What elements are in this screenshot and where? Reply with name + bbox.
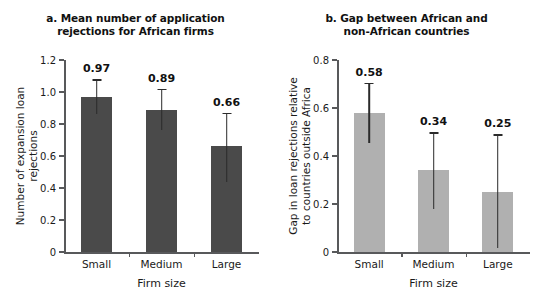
value-label-small: 0.97 [83, 62, 110, 75]
panel-a-x-axis-line [64, 252, 259, 254]
panel-a-plot-area: 00.20.40.60.81.01.20.970.890.66 [64, 60, 259, 252]
panel-a-title-line-1: a. Mean number of application [0, 12, 271, 25]
y-axis-tick-label: 0.4 [22, 183, 56, 194]
y-axis-tick-label: 0.8 [22, 119, 56, 130]
figure-two-panel-bar-charts: a. Mean number of application rejections… [0, 0, 542, 303]
y-axis-tick [332, 107, 337, 108]
error-bar-cap-small [92, 79, 101, 81]
x-axis-tick [466, 252, 467, 257]
x-axis-category-small: Small [355, 258, 384, 270]
error-bar-small [368, 83, 370, 143]
y-axis-tick [59, 155, 64, 156]
value-label-medium: 0.89 [148, 72, 175, 85]
y-axis-tick [59, 187, 64, 188]
x-axis-category-large: Large [483, 258, 513, 270]
panel-a-y-axis-line [64, 60, 66, 252]
panel-a-title: a. Mean number of application rejections… [0, 12, 271, 38]
error-bar-large [497, 134, 499, 248]
y-axis-tick [59, 91, 64, 92]
y-axis-tick-label: 0.6 [22, 151, 56, 162]
y-axis-tick [332, 155, 337, 156]
panel-b-y-axis-line [337, 60, 339, 252]
error-bar-large [226, 113, 228, 182]
x-axis-category-small: Small [82, 258, 111, 270]
error-bar-cap-small [365, 83, 374, 85]
value-label-medium: 0.34 [420, 115, 447, 128]
chart-panel-b: b. Gap between African and non-African c… [271, 0, 542, 303]
y-axis-tick-label: 0 [22, 247, 56, 258]
panel-a-x-axis-title: Firm size [64, 277, 259, 290]
panel-b-title-line-1: b. Gap between African and [271, 12, 542, 25]
y-axis-tick-label: 0.2 [295, 199, 329, 210]
x-axis-tick [194, 252, 195, 257]
bar-small [81, 97, 112, 252]
error-bar-cap-large [222, 113, 231, 115]
panel-b-x-axis-title: Firm size [337, 277, 530, 290]
error-bar-cap-large [493, 134, 502, 136]
panel-b-title: b. Gap between African and non-African c… [271, 12, 542, 38]
panel-b-x-axis-line [337, 252, 530, 254]
y-axis-tick-label: 0.8 [295, 55, 329, 66]
error-bar-small [96, 79, 98, 114]
y-axis-tick-label: 1.2 [22, 55, 56, 66]
x-axis-tick [129, 252, 130, 257]
y-axis-tick-label: 0.4 [295, 151, 329, 162]
y-axis-tick [332, 203, 337, 204]
y-axis-tick [332, 59, 337, 60]
x-axis-category-large: Large [212, 258, 242, 270]
error-bar-medium [433, 132, 435, 209]
value-label-large: 0.66 [213, 96, 240, 109]
y-axis-tick [59, 251, 64, 252]
y-axis-tick-label: 1.0 [22, 87, 56, 98]
panel-b-title-line-2: non-African countries [271, 25, 542, 38]
error-bar-cap-medium [429, 132, 438, 134]
y-axis-tick-label: 0 [295, 247, 329, 258]
value-label-small: 0.58 [356, 66, 383, 79]
panel-b-plot-area: 00.20.40.60.80.580.340.25 [337, 60, 530, 252]
y-axis-tick [59, 219, 64, 220]
x-axis-tick [401, 252, 402, 257]
y-axis-tick [332, 251, 337, 252]
chart-panel-a: a. Mean number of application rejections… [0, 0, 271, 303]
panel-a-title-line-2: rejections for African firms [0, 25, 271, 38]
y-axis-tick-label: 0.2 [22, 215, 56, 226]
error-bar-medium [161, 89, 163, 131]
x-axis-category-medium: Medium [141, 258, 183, 270]
value-label-large: 0.25 [484, 117, 511, 130]
x-axis-category-medium: Medium [413, 258, 455, 270]
y-axis-tick [59, 59, 64, 60]
bar-medium [146, 110, 177, 252]
y-axis-tick [59, 123, 64, 124]
y-axis-tick-label: 0.6 [295, 103, 329, 114]
error-bar-cap-medium [157, 89, 166, 91]
